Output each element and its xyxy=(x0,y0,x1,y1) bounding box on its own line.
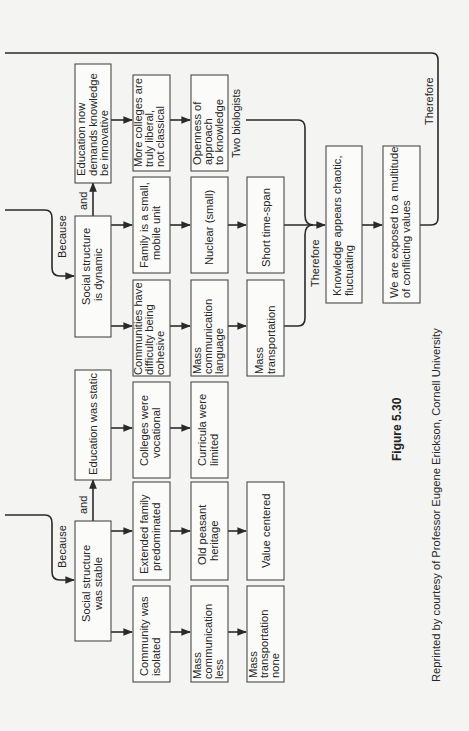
figure-credit: Reprinted by courtesy of Professor Eugen… xyxy=(430,328,442,682)
box-extended-family: Extended familypredominated xyxy=(133,482,170,580)
svg-text:Education was static: Education was static xyxy=(87,373,99,475)
box-mass-transportation: Masstransportation xyxy=(247,280,284,376)
flow-diagram: Because and Because and Therefore Theref… xyxy=(0,0,469,731)
svg-text:Extended familypredominated: Extended familypredominated xyxy=(138,494,162,574)
box-openness-approach: Openness ofapproachto knowledge xyxy=(191,75,228,171)
box-mass-communication-less: Masscommunicationless xyxy=(191,586,228,682)
box-short-time-span: Short time-span xyxy=(247,177,284,273)
box-family-small-mobile: Family is a small,mobile unit xyxy=(133,177,170,273)
box-colleges-vocational: Colleges werevocational xyxy=(133,382,170,478)
therefore-mid-label: Therefore xyxy=(309,239,321,287)
box-mass-transportation-none: Masstransportationnone xyxy=(247,586,284,682)
box-social-structure-stable: Social structurewas stable xyxy=(75,521,111,641)
two-biologists-label: Two biologists xyxy=(230,88,242,158)
because-top-label: Because xyxy=(56,215,68,258)
box-value-centered: Value centered xyxy=(247,482,284,580)
box-social-structure-dynamic: Social structureis dynamic xyxy=(75,216,111,337)
box-knowledge-chaotic: Knowledge appears chaotic,fluctuating xyxy=(326,146,362,303)
therefore-right-label: Therefore xyxy=(423,77,435,125)
box-nuclear-small: Nuclear (small) xyxy=(191,177,228,273)
figure-label: Figure 5.30 xyxy=(390,397,404,461)
because-bottom-label: Because xyxy=(56,525,68,568)
and-top-label: and xyxy=(77,192,89,210)
box-communities-difficulty: Communities havedifficulty beingcohesive xyxy=(132,280,170,376)
box-education-static: Education was static xyxy=(75,370,111,480)
box-mass-communication-language: Masscommunicationlanguage xyxy=(191,280,228,376)
connector-labels: Because and Because and Therefore Theref… xyxy=(56,77,435,568)
box-community-isolated: Community wasisolated xyxy=(133,586,170,682)
svg-text:Nuclear (small): Nuclear (small) xyxy=(203,190,215,265)
box-curricula-limited: Curricula werelimited xyxy=(191,382,228,478)
box-exposed-conflicting-values: We are exposed to a multitudeof conflict… xyxy=(383,146,420,303)
svg-text:Short time-span: Short time-span xyxy=(260,188,272,267)
box-old-peasant-heritage: Old peasantheritage xyxy=(191,482,228,580)
svg-text:Value centered: Value centered xyxy=(260,494,272,568)
box-more-colleges-liberal: More colleges aretruly liberal,not class… xyxy=(132,75,170,171)
box-education-now: Education nowdemands knowledgebe innovat… xyxy=(75,64,111,183)
and-bottom-label: and xyxy=(77,496,89,514)
